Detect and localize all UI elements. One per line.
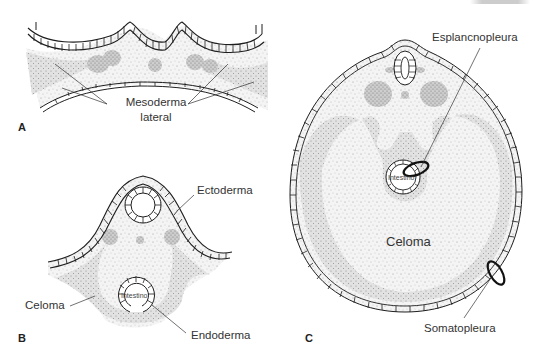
label-endoderm: Endoderma — [191, 330, 250, 342]
somite-left-2 — [103, 50, 121, 66]
somite-right-c — [420, 81, 448, 107]
label-mesoderm-line2: lateral — [118, 112, 194, 124]
notochord-c — [401, 91, 409, 99]
somite-right-1 — [186, 54, 204, 70]
embryo-cross-section-diagram — [0, 0, 539, 354]
somite-right-b — [164, 229, 180, 245]
label-intestine-b: Intestino — [121, 292, 147, 299]
panel-letter-a: A — [18, 122, 26, 133]
label-mesoderm-lateral: Mesoderma lateral — [118, 97, 194, 123]
panel-letter-b: B — [18, 333, 26, 344]
label-mesoderm-line1: Mesoderma — [118, 97, 194, 109]
panel-b — [48, 176, 232, 333]
somite-right-2 — [202, 59, 218, 73]
somite-left-b — [102, 229, 118, 245]
label-intestine-c: Intestino — [388, 174, 414, 181]
notochord-b — [136, 236, 144, 244]
somite-left-c — [364, 81, 392, 107]
label-coelom-c: Celoma — [386, 235, 431, 248]
label-coelom-b: Celoma — [25, 300, 65, 312]
label-somatopleure: Somatopleura — [424, 323, 496, 335]
notochord-a — [148, 58, 162, 72]
label-ectoderm: Ectoderma — [197, 185, 253, 197]
label-splanchnopleure: Esplancnopleura — [432, 32, 518, 44]
panel-letter-c: C — [305, 333, 313, 344]
